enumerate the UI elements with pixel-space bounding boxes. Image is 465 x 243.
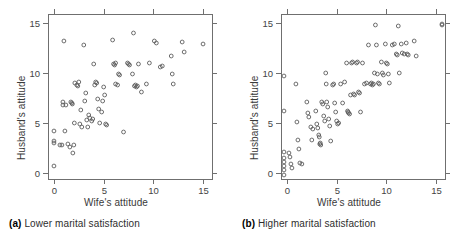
data-point <box>395 53 399 57</box>
data-point <box>329 139 333 143</box>
x-tick-label: 0 <box>52 185 57 196</box>
data-point <box>316 126 320 130</box>
data-point <box>406 53 410 57</box>
data-point <box>76 84 80 88</box>
data-point <box>333 101 337 105</box>
caption-text-b: Higher marital satisfaction <box>258 218 376 229</box>
y-tick-label: 0 <box>268 168 273 179</box>
y-axis-title-a: Husband's attitude <box>16 76 27 160</box>
y-tick-label: 15 <box>262 18 273 29</box>
data-point <box>385 62 389 66</box>
data-point <box>282 160 286 164</box>
data-points <box>52 31 205 168</box>
x-axis-title-a: Wife's attitude <box>0 197 232 208</box>
plot-area-a: 051015051015 <box>0 0 232 200</box>
data-point <box>62 39 66 43</box>
data-point <box>383 42 387 46</box>
data-point <box>140 90 144 94</box>
y-tick-label: 5 <box>35 118 40 129</box>
data-point <box>102 85 106 89</box>
x-tick-label: 10 <box>381 185 392 196</box>
data-point <box>111 38 115 42</box>
data-point <box>361 61 365 65</box>
data-point <box>84 91 88 95</box>
y-tick-label: 0 <box>35 168 40 179</box>
plot-frame <box>48 14 212 179</box>
data-point <box>306 111 310 115</box>
x-tick-label: 10 <box>148 185 159 196</box>
data-point <box>399 42 403 46</box>
caption-text-a: Lower marital satisfaction <box>24 218 139 229</box>
figure-scatterplot-pair: 051015051015 Husband's attitude Wife's a… <box>0 0 465 243</box>
data-point <box>71 151 75 155</box>
data-point <box>356 60 360 64</box>
caption-label-b: (b) <box>242 218 255 229</box>
data-point <box>96 97 100 101</box>
data-point <box>328 124 332 128</box>
data-point <box>290 166 294 170</box>
data-point <box>297 147 301 151</box>
data-point <box>343 80 347 84</box>
data-point <box>332 82 336 86</box>
x-tick-label: 5 <box>335 185 340 196</box>
data-point <box>404 41 408 45</box>
data-point <box>118 73 122 77</box>
data-point <box>310 138 314 142</box>
data-point <box>307 115 311 119</box>
caption-a: (a) Lower marital satisfaction <box>9 218 140 229</box>
x-tick-label: 0 <box>285 185 290 196</box>
data-point <box>345 61 349 65</box>
data-point <box>170 72 174 76</box>
panel-b: 051015051015 Husband's attitude Wife's a… <box>233 0 465 243</box>
data-point <box>52 164 56 168</box>
data-point <box>282 109 286 113</box>
data-point <box>80 125 84 129</box>
x-axis-title-b: Wife's attitude <box>233 197 465 208</box>
data-point <box>105 123 109 127</box>
data-point <box>359 110 363 114</box>
data-point <box>169 54 173 58</box>
plot-frame <box>281 14 445 179</box>
data-point <box>63 129 67 133</box>
data-point <box>305 100 309 104</box>
data-point <box>131 72 135 76</box>
data-point <box>180 40 184 44</box>
data-point <box>82 43 86 47</box>
data-point <box>147 61 151 65</box>
data-point <box>339 82 343 86</box>
x-tick-label: 5 <box>102 185 107 196</box>
x-tick-label: 15 <box>198 185 209 196</box>
data-point <box>182 50 186 54</box>
data-point <box>296 138 300 142</box>
caption-label-a: (a) <box>9 218 22 229</box>
data-point <box>331 83 335 87</box>
data-point <box>201 42 205 46</box>
data-point <box>132 31 136 35</box>
data-point <box>324 71 328 75</box>
data-point <box>379 60 383 64</box>
data-point <box>101 99 105 103</box>
data-point <box>378 82 382 86</box>
data-point <box>92 62 96 66</box>
data-point <box>341 101 345 105</box>
data-points <box>282 22 444 177</box>
data-point <box>288 155 292 159</box>
data-point <box>282 164 286 168</box>
data-point <box>83 99 87 103</box>
data-point <box>72 143 76 147</box>
data-point <box>77 80 81 84</box>
data-point <box>103 93 107 97</box>
data-point <box>72 121 76 125</box>
data-point <box>324 82 328 86</box>
data-point <box>326 105 330 109</box>
data-point <box>98 121 102 125</box>
data-point <box>137 62 141 66</box>
data-point <box>315 122 319 126</box>
data-point <box>314 109 318 113</box>
data-point <box>68 145 72 149</box>
data-point <box>294 82 298 86</box>
data-point <box>334 110 338 114</box>
y-axis-title-b: Husband's attitude <box>249 76 260 160</box>
data-point <box>358 91 362 95</box>
data-point <box>282 156 286 160</box>
